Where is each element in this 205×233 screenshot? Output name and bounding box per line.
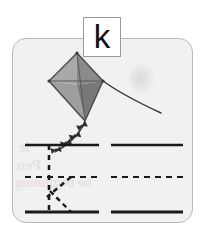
trace-stroke-arm (47, 177, 71, 197)
letter-glyph: k (94, 20, 111, 53)
practice-card: le Pen he beginning (12, 38, 193, 223)
trace-stroke-leg (50, 191, 71, 212)
letter-display-box: k (83, 17, 121, 57)
trace-letter-k (13, 39, 193, 223)
handwriting-practice-worksheet: le Pen he beginning (0, 0, 205, 233)
